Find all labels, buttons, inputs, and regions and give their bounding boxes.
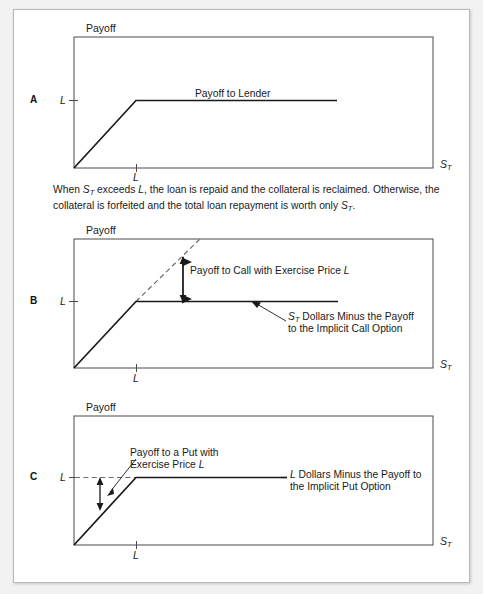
st-call-text-line1: Dollars Minus the Payoff <box>302 311 413 322</box>
l-put-text-line1: Dollars Minus the Payoff to <box>299 469 422 480</box>
panel-a-x-tick-label: L <box>133 171 139 183</box>
panel-letter-c: C <box>30 471 37 482</box>
figure-caption: When ST exceeds L, the loan is repaid an… <box>53 183 445 215</box>
panel-c-x-axis-label: ST <box>440 535 452 549</box>
panel-b-x-axis-var: S <box>440 358 447 370</box>
put-exercise-price-var-l: L <box>199 459 205 470</box>
panel-c-payoff-curve <box>74 478 281 546</box>
panel-a-y-axis-title: Payoff <box>86 22 116 34</box>
panel-c-x-tick-label: L <box>133 549 139 561</box>
panel-b-x-axis-label: ST <box>440 358 452 372</box>
caption-line2-var-st: S <box>341 200 348 211</box>
panel-b-leader-line <box>256 304 286 322</box>
panel-c-x-axis-sub: T <box>447 540 452 549</box>
panel-letter-a: A <box>30 94 37 105</box>
panel-a-plot <box>69 37 433 172</box>
l-dollars-minus-put-label-line2: the Implicit Put Option <box>290 481 391 493</box>
payoff-to-call-label: Payoff to Call with Exercise Price L <box>190 265 349 277</box>
panel-a-y-tick-label: L <box>60 94 66 106</box>
panel-letter-b: B <box>30 295 37 306</box>
panel-c-y-axis-title: Payoff <box>86 401 116 413</box>
panel-c-measure-arrowhead-top <box>97 477 104 485</box>
panel-c-measure-arrowhead-bottom <box>97 503 104 511</box>
payoff-to-put-label-line1: Payoff to a Put with <box>130 447 219 459</box>
figure-root: A Payoff L L ST Payoff to Lender When ST… <box>0 0 483 594</box>
caption-line1-pre: When <box>53 184 83 195</box>
caption-line1-mid: exceeds <box>94 184 138 195</box>
panel-a-x-axis-label: ST <box>440 158 452 172</box>
panel-a-x-axis-var: S <box>440 158 447 170</box>
panel-c-put-leader-arrowhead <box>107 488 114 496</box>
panel-a-plot-frame <box>74 37 433 168</box>
payoff-to-put-label-line2: Exercise Price L <box>130 459 204 471</box>
caption-line2-post: . <box>352 200 355 211</box>
panel-c-x-axis-var: S <box>440 535 447 547</box>
l-dollars-minus-put-label-line1: L Dollars Minus the Payoff to <box>290 469 421 481</box>
caption-line1-var-st: S <box>83 184 90 195</box>
caption-line1-post: , the loan is repaid and the collateral … <box>144 184 422 195</box>
l-put-var-l: L <box>290 469 296 480</box>
panel-b-plot <box>69 238 433 372</box>
panel-b-y-tick-label: L <box>60 295 66 307</box>
panel-b-x-tick-label: L <box>133 372 139 384</box>
st-call-var-s: S <box>288 311 295 322</box>
panel-b-y-axis-title: Payoff <box>86 224 116 236</box>
panel-a-x-axis-sub: T <box>447 163 452 172</box>
panel-a-payoff-curve <box>74 101 337 169</box>
panel-b-x-axis-sub: T <box>447 363 452 372</box>
st-dollars-minus-call-label-line2: to the Implicit Call Option <box>288 323 402 335</box>
payoff-to-lender-label: Payoff to Lender <box>195 88 270 100</box>
call-exercise-price-var-l: L <box>344 265 350 276</box>
panel-c-y-tick-label: L <box>60 471 66 483</box>
